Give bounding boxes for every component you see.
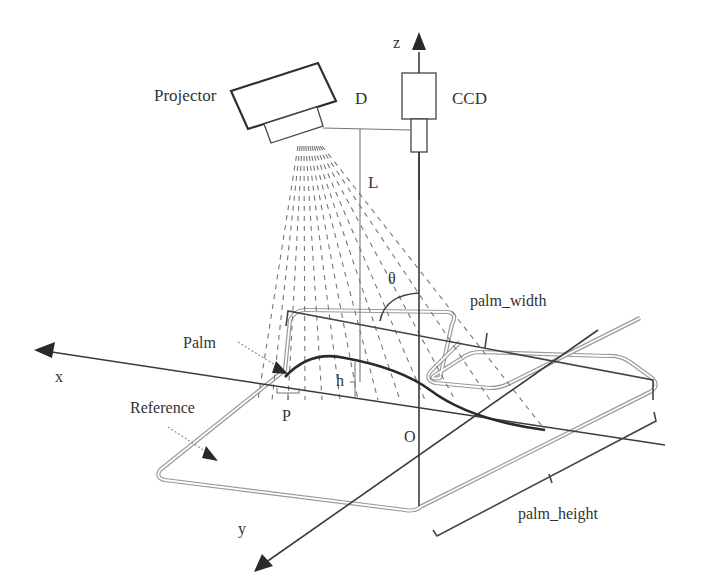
projector: [231, 63, 336, 143]
palm-pointer: [238, 342, 288, 374]
reference-plane: [158, 310, 655, 511]
palmprint-acquisition-diagram: Projector CCD z D L θ palm_width Palm x …: [0, 0, 720, 575]
theta-arc: [380, 293, 419, 321]
p-label: P: [282, 407, 291, 424]
x-axis-label: x: [55, 368, 63, 385]
baseline-d-line: [323, 128, 411, 130]
h-label: h: [336, 372, 344, 389]
projector-label: Projector: [154, 86, 217, 105]
z-axis-label: z: [393, 34, 400, 51]
palm-height-label: palm_height: [518, 505, 599, 523]
d-label: D: [355, 89, 367, 108]
ccd-camera: [402, 73, 436, 200]
origin-label: O: [404, 428, 416, 445]
y-axis-label: y: [238, 520, 246, 538]
palm-label: Palm: [183, 334, 216, 351]
l-label: L: [368, 173, 378, 192]
y-axis: [254, 330, 598, 572]
reference-label: Reference: [130, 399, 195, 416]
palm-width-label: palm_width: [470, 292, 546, 310]
theta-label: θ: [388, 270, 396, 287]
h-measure: [350, 362, 355, 398]
ccd-label: CCD: [452, 89, 487, 108]
